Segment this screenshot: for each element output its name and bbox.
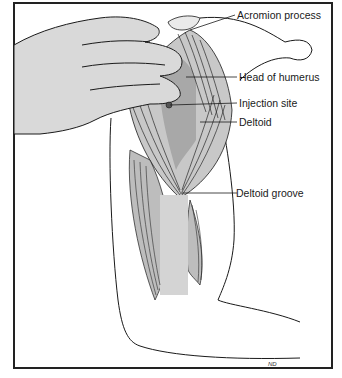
label-injection-site: Injection site (239, 98, 297, 109)
label-deltoid: Deltoid (239, 117, 272, 128)
label-head-of-humerus: Head of humerus (239, 72, 320, 83)
label-acromion-process: Acromion process (237, 10, 321, 21)
artist-signature: ND (268, 361, 277, 367)
label-deltoid-groove: Deltoid groove (236, 188, 304, 199)
